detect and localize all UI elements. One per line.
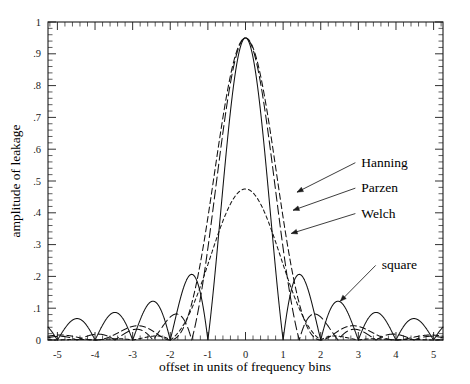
y-tick-label: .5 <box>33 176 41 187</box>
y-axis-tick-labels: 0.1.2.3.4.5.6.7.8.91 <box>33 17 42 346</box>
annotation-arrowhead <box>291 229 297 234</box>
y-tick-label: .1 <box>33 303 41 314</box>
x-tick-label: -3 <box>128 349 137 360</box>
x-tick-label: 5 <box>431 349 436 360</box>
x-tick-label: 3 <box>356 349 361 360</box>
y-tick-label: .2 <box>33 271 41 282</box>
x-axis-title: offset in units of frequency bins <box>159 359 331 374</box>
x-tick-label: -4 <box>91 349 100 360</box>
series-label-parzen: Parzen <box>361 180 398 195</box>
annotation-arrowhead <box>297 187 303 192</box>
series-label-hanning: Hanning <box>361 155 408 170</box>
leakage-figure: -5-4-3-2-1012345 0.1.2.3.4.5.6.7.8.91 Ha… <box>0 0 470 384</box>
y-tick-label: 1 <box>36 17 41 28</box>
y-tick-label: .9 <box>33 48 41 59</box>
y-tick-label: .8 <box>33 80 41 91</box>
chart-canvas: -5-4-3-2-1012345 0.1.2.3.4.5.6.7.8.91 Ha… <box>0 0 470 384</box>
y-axis-title: amplitude of leakage <box>8 124 23 237</box>
series-annotations: HanningParzenWelchsquare <box>291 155 417 302</box>
y-tick-label: .6 <box>33 144 41 155</box>
x-tick-label: -5 <box>53 349 62 360</box>
y-tick-label: .7 <box>33 112 41 123</box>
annotation-leader-line <box>340 265 375 301</box>
x-tick-label: 4 <box>393 349 399 360</box>
series-label-square: square <box>382 257 417 272</box>
y-tick-label: .4 <box>33 207 42 218</box>
y-tick-label: .3 <box>33 239 41 250</box>
series-label-welch: Welch <box>361 206 395 221</box>
annotation-leader-line <box>291 214 355 234</box>
annotation-arrowhead <box>293 206 299 211</box>
annotation-leader-line <box>297 163 355 192</box>
y-tick-label: 0 <box>36 335 41 346</box>
